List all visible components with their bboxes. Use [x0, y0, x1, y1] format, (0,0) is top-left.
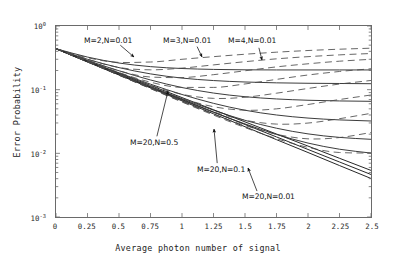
- annotation-label-a2: M=3,N=0.01: [163, 36, 211, 45]
- x-tick-label-5: 1.25: [205, 222, 223, 231]
- annotation-arrow-a2: [197, 47, 202, 57]
- x-axis-title: Average photon number of signal: [0, 243, 396, 253]
- x-tick-label-4: 1: [180, 222, 184, 231]
- x-tick-label-1: 0.25: [78, 222, 96, 231]
- figure-container: Error Probability 100 10-1 10-2 10-3 00.…: [0, 0, 396, 265]
- annotation-arrow-a1: [120, 45, 134, 57]
- x-tick-label-6: 1.5: [239, 222, 252, 231]
- annotation-label-a3: M=4,N=0.01: [228, 36, 276, 45]
- annotation-arrow-a5: [214, 129, 217, 163]
- x-tick-label-3: 0.75: [141, 222, 159, 231]
- annotation-arrow-a4: [157, 91, 168, 136]
- annotation-arrow-a3: [259, 48, 262, 60]
- annotation-label-a1: M=2,N=0.01: [84, 36, 132, 45]
- x-tick-label-8: 2: [306, 222, 310, 231]
- x-tick-label-9: 2.25: [331, 222, 349, 231]
- annotation-label-a5: M=20,N=0.1: [197, 165, 245, 174]
- annotation-label-a4: M=20,N=0.5: [130, 138, 178, 147]
- plot-area: [55, 25, 372, 218]
- x-tick-label-10: 2.5: [365, 222, 378, 231]
- x-tick-label-0: 0: [53, 222, 57, 231]
- annotation-label-a6: M=20,N=0.01: [242, 192, 295, 201]
- x-tick-label-7: 1.75: [268, 222, 286, 231]
- x-tick-label-2: 0.5: [112, 222, 125, 231]
- annotation-arrow-a6: [248, 168, 257, 191]
